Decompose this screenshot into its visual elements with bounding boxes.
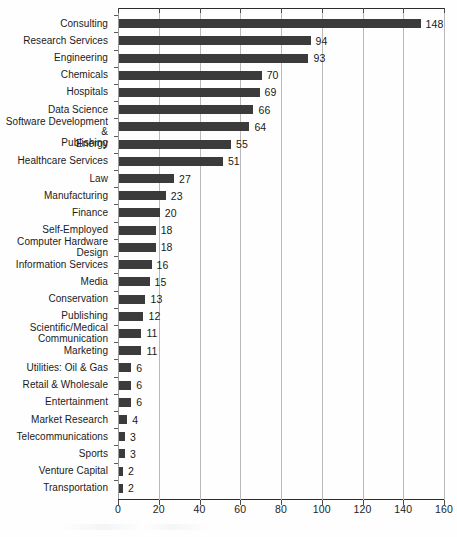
bar-value-label: 6 (136, 362, 142, 374)
category-label: Law (90, 174, 109, 185)
category-label: Media (81, 277, 109, 288)
category-tick (114, 291, 118, 292)
category-tick (114, 273, 118, 274)
y-axis-line (118, 8, 119, 500)
bar-value-label: 69 (265, 86, 277, 98)
category-tick (114, 428, 118, 429)
category-label: Information Services (16, 260, 108, 271)
gridline-140 (403, 8, 404, 500)
bar-value-label: 18 (161, 241, 173, 253)
category-tick (114, 101, 118, 102)
x-tick-top-120 (363, 8, 364, 13)
category-tick (114, 445, 118, 446)
category-tick (114, 84, 118, 85)
bar (119, 449, 125, 458)
category-label: Manufacturing (44, 191, 108, 202)
bar (119, 226, 156, 235)
bar (119, 432, 125, 441)
category-label: Market Research (31, 415, 108, 426)
category-tick (114, 359, 118, 360)
category-tick (114, 136, 118, 137)
bar-value-label: 11 (146, 327, 157, 339)
x-tick-label-160: 160 (435, 503, 453, 515)
category-tick (114, 377, 118, 378)
bar-value-label: 4 (132, 414, 138, 426)
category-tick (114, 256, 118, 257)
category-label: Entertainment (45, 397, 108, 408)
x-tick-top-0 (118, 8, 119, 13)
x-tick-label-100: 100 (313, 503, 331, 515)
bar-value-label: 16 (157, 259, 169, 271)
bar-value-label: 15 (155, 276, 167, 288)
gridline-80 (281, 8, 282, 500)
bar-value-label: 94 (316, 35, 328, 47)
bar (119, 174, 174, 183)
bar-value-label: 6 (136, 396, 142, 408)
bar (119, 346, 141, 355)
category-label: Healthcare Services (18, 156, 108, 167)
x-tick-top-140 (403, 8, 404, 13)
category-tick (114, 118, 118, 119)
category-tick (114, 15, 118, 16)
bar-value-label: 11 (146, 345, 157, 357)
x-tick-label-40: 40 (193, 503, 205, 515)
gridline-100 (322, 8, 323, 500)
bar (119, 295, 145, 304)
bar (119, 54, 308, 63)
bar (119, 157, 223, 166)
bar (119, 36, 311, 45)
category-label: Hospitals (66, 87, 108, 98)
category-tick (114, 342, 118, 343)
bar (119, 191, 166, 200)
category-label: Research Services (23, 36, 108, 47)
bar (119, 415, 127, 424)
x-tick-top-60 (240, 8, 241, 13)
bar-value-label: 148 (426, 18, 444, 30)
bar (119, 19, 421, 28)
bar-value-label: 66 (258, 104, 270, 116)
bar (119, 140, 231, 149)
x-tick-top-80 (281, 8, 282, 13)
category-tick (114, 67, 118, 68)
bar (119, 105, 253, 114)
bar-value-label: 18 (161, 224, 173, 236)
bar-value-label: 12 (148, 310, 160, 322)
bar-value-label: 13 (150, 293, 162, 305)
bar-value-label: 3 (130, 448, 136, 460)
bar-value-label: 23 (171, 190, 183, 202)
category-tick (114, 480, 118, 481)
bar (119, 484, 123, 493)
category-label: Marketing (64, 346, 108, 357)
bar (119, 363, 131, 372)
category-label: Telecommunications (17, 432, 109, 443)
bar (119, 329, 141, 338)
bar (119, 398, 131, 407)
category-label: Scientific/Medical Communication (30, 323, 108, 344)
bar (119, 260, 152, 269)
bar (119, 71, 262, 80)
category-tick (114, 32, 118, 33)
gridline-20 (159, 8, 160, 500)
bar-value-label: 55 (236, 138, 248, 150)
category-tick (114, 50, 118, 51)
category-tick (114, 325, 118, 326)
category-tick (114, 222, 118, 223)
category-label: Self-Employed (42, 225, 108, 236)
category-label: Conservation (48, 294, 108, 305)
category-label: Data Science (48, 105, 108, 116)
category-tick (114, 187, 118, 188)
bar-value-label: 93 (313, 52, 325, 64)
bar-value-label: 20 (165, 207, 177, 219)
category-label: Transportation (43, 483, 108, 494)
category-tick (114, 153, 118, 154)
category-label: Sports (79, 449, 108, 460)
x-tick-label-80: 80 (275, 503, 287, 515)
plot-area: 1489493706966645551272320181816151312111… (118, 8, 444, 500)
x-tick-label-0: 0 (115, 503, 121, 515)
bar-value-label: 64 (254, 121, 266, 133)
x-tick-label-140: 140 (394, 503, 412, 515)
x-tick-top-40 (200, 8, 201, 13)
x-tick-top-160 (444, 8, 445, 13)
category-tick (114, 463, 118, 464)
bar-chart-figure: 1489493706966645551272320181816151312111… (0, 0, 457, 537)
